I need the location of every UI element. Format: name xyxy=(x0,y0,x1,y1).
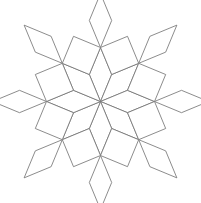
tile-group xyxy=(0,0,201,203)
figure-canvas xyxy=(0,0,201,203)
rosette-drawing xyxy=(0,0,201,203)
